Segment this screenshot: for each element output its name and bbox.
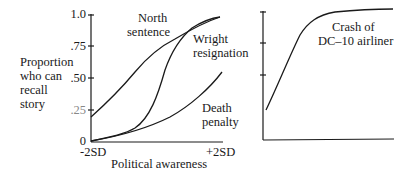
label-resignation: resignation [193,46,249,60]
y-axis-label-line4: story [20,97,45,111]
label-penalty: penalty [202,115,239,129]
y-tick-050: .50 [58,71,86,85]
label-north: North [138,11,167,25]
label-dc10: DC–10 airliner [318,34,393,48]
x-tick-right: +2SD [206,145,235,159]
label-wright: Wright [193,32,228,46]
y-tick-1: 1.0 [58,7,86,21]
label-crash-of: Crash of [332,20,375,34]
y-axis-label-line1: Proportion [20,55,73,69]
x-axis-label: Political awareness [111,157,207,171]
label-death: Death [202,101,232,115]
y-tick-075: .75 [58,39,86,53]
label-sentence: sentence [127,25,170,39]
y-axis-label-line3: recall [20,83,48,97]
y-tick-025: .25 [58,103,86,117]
y-axis-label-line2: who can [20,69,62,83]
x-tick-left: -2SD [80,145,106,159]
